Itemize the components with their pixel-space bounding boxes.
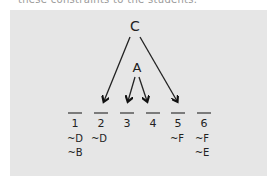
slot-1-constraint-2: ~B <box>67 147 82 158</box>
slot-2-label: 2 <box>98 117 105 130</box>
slot-5-constraint-1: ~F <box>170 133 184 144</box>
arrow-c-to-5 <box>140 37 177 101</box>
arrow-a-to-3 <box>128 77 135 101</box>
slot-6-label: 6 <box>201 117 208 130</box>
slot-5-label: 5 <box>175 117 182 130</box>
slot-2-constraint-1: ~D <box>91 133 107 144</box>
slot-6-constraint-2: ~E <box>195 147 210 158</box>
node-c-label: C <box>130 18 140 34</box>
constraint-diagram: C A 1 2 3 4 5 6 ~D ~B ~D ~F ~F ~E <box>0 0 275 183</box>
slot-1-label: 1 <box>72 117 79 130</box>
slot-4-label: 4 <box>150 117 157 130</box>
arrow-a-to-4 <box>139 77 147 101</box>
slot-1-constraint-1: ~D <box>67 133 83 144</box>
slot-3-label: 3 <box>124 117 131 130</box>
arrow-c-to-2 <box>104 37 130 101</box>
slot-6-constraint-1: ~F <box>195 133 209 144</box>
node-a-label: A <box>133 60 142 75</box>
